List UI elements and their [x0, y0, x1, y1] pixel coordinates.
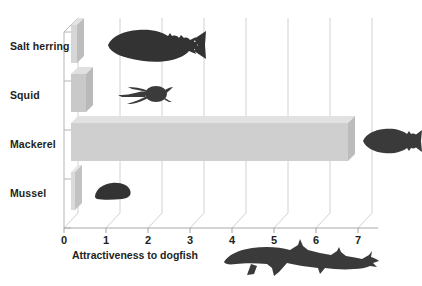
- category-label-mussel: Mussel: [10, 187, 46, 199]
- xtick-label-7: 7: [348, 234, 368, 246]
- herring-fish-icon: [108, 30, 206, 62]
- bar-mussel: [71, 165, 82, 210]
- xtick-label-5: 5: [264, 234, 284, 246]
- xtick-label-4: 4: [222, 234, 242, 246]
- category-ticks: [64, 32, 71, 228]
- category-label-salt-herring: Salt herring: [10, 40, 70, 52]
- xtick-label-3: 3: [180, 234, 200, 246]
- value-axis-ticks: [64, 228, 358, 233]
- bar-squid: [71, 67, 93, 112]
- category-label-squid: Squid: [10, 89, 40, 101]
- xtick-label-6: 6: [306, 234, 326, 246]
- xtick-label-1: 1: [96, 234, 116, 246]
- bar-chart: Salt herring Squid Mackerel Mussel 0 1 2…: [0, 0, 422, 286]
- xtick-label-0: 0: [54, 234, 74, 246]
- category-label-mackerel: Mackerel: [10, 138, 56, 150]
- bar-mackerel: [71, 116, 355, 161]
- xtick-label-2: 2: [138, 234, 158, 246]
- bar-salt-herring: [71, 18, 84, 63]
- x-axis-title: Attractiveness to dogfish: [72, 249, 198, 261]
- mussel-icon: [95, 183, 131, 200]
- squid-icon: [118, 86, 173, 104]
- mackerel-fish-icon: [363, 129, 422, 154]
